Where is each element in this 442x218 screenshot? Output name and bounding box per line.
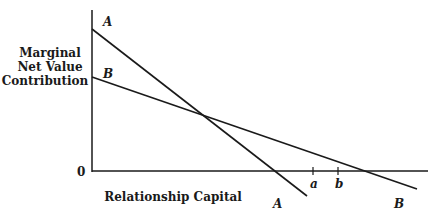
line-b-end-label: B — [393, 197, 404, 211]
line-b — [92, 77, 417, 189]
line-a-end-label: A — [272, 197, 282, 211]
y-axis-label-line1: Marginal — [19, 46, 81, 60]
origin-label: 0 — [77, 165, 85, 179]
tick-b-label: b — [335, 177, 343, 191]
y-axis-label-line2: Net Value — [17, 60, 83, 74]
tick-a-label: a — [310, 177, 318, 191]
line-a-start-label: A — [102, 15, 112, 29]
diagram-canvas: A B A B a b 0 Marginal Net Value Contrib… — [0, 0, 442, 218]
x-axis-label: Relationship Capital — [104, 190, 242, 204]
line-b-start-label: B — [102, 67, 113, 81]
y-axis-label-line3: Contribution — [2, 74, 89, 88]
